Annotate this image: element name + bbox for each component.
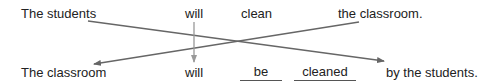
active-auxiliary: will (185, 6, 203, 22)
blank-be[interactable]: be (240, 64, 282, 81)
active-subject: The students (21, 6, 96, 22)
blank-cleaned[interactable]: cleaned (294, 64, 356, 81)
passive-auxiliary: will (185, 65, 203, 81)
active-verb: clean (241, 6, 272, 22)
object-to-subject-arrow (94, 22, 359, 64)
passive-agent: by the students. (386, 65, 478, 81)
active-object: the classroom. (338, 6, 423, 22)
passive-subject: The classroom (21, 65, 106, 81)
